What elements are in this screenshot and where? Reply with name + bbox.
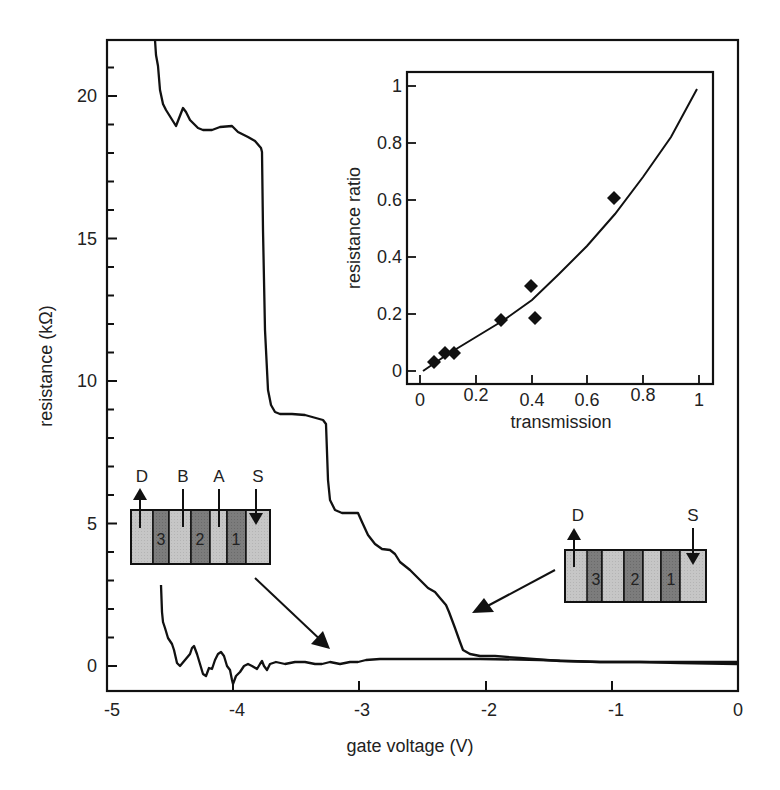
y-tick-5: 5 [87, 514, 97, 534]
y-tick-15: 15 [77, 229, 97, 249]
inset-x-tick-0: 0 [415, 390, 425, 410]
inset-x-tick-0.4: 0.4 [519, 390, 544, 410]
y-tick-20: 20 [77, 86, 97, 106]
x-tick-minus4: -4 [229, 700, 245, 720]
right-segment-3: 3 [592, 571, 601, 588]
y-axis-tick-labels: 0 5 10 15 20 [77, 86, 97, 676]
right-drain-up-arrow-icon [567, 528, 581, 540]
drain-up-arrow-icon [133, 488, 147, 500]
left-label-s: S [252, 467, 263, 486]
right-arrow-head [472, 598, 494, 613]
left-segment-1: 1 [232, 531, 241, 548]
left-label-b: B [177, 467, 188, 486]
right-device-schematic: 3 2 1 D S [565, 506, 706, 602]
inset-x-axis-label: transmission [510, 412, 611, 432]
y-tick-0: 0 [87, 656, 97, 676]
inset-y-tick-0.2: 0.2 [377, 304, 402, 324]
figure: 0 5 10 15 20 -5 -4 -3 -2 -1 0 gate volta… [0, 0, 780, 790]
inset-frame [407, 72, 713, 384]
inset-y-tick-labels: 0 0.2 0.4 0.6 0.8 1 [377, 76, 402, 381]
x-axis-ticks [233, 681, 612, 691]
inset-y-tick-1: 1 [392, 76, 402, 96]
inset-x-tick-0.8: 0.8 [630, 385, 655, 405]
inset-y-tick-0.6: 0.6 [377, 190, 402, 210]
right-schematic-arrow [480, 570, 555, 610]
inset-y-tick-0: 0 [392, 361, 402, 381]
left-schematic-arrow [255, 578, 327, 646]
left-label-a: A [213, 467, 225, 486]
right-segment-1: 1 [667, 571, 676, 588]
inset-y-tick-0.8: 0.8 [377, 133, 402, 153]
y-tick-10: 10 [77, 371, 97, 391]
inset-x-tick-1: 1 [694, 390, 704, 410]
left-segment-2: 2 [196, 531, 205, 548]
inset-x-tick-0.2: 0.2 [463, 385, 488, 405]
left-segment-3: 3 [157, 531, 166, 548]
right-label-s: S [687, 506, 698, 525]
x-axis-label: gate voltage (V) [346, 736, 473, 756]
x-tick-minus1: -1 [608, 700, 624, 720]
x-tick-minus2: -2 [481, 700, 497, 720]
left-label-d: D [136, 467, 148, 486]
x-axis-tick-labels: -5 -4 -3 -2 -1 0 [104, 700, 743, 720]
inset-plot: 0 0.2 0.4 0.6 0.8 1 0 0.2 0.4 0.6 0.8 1 … [344, 72, 713, 432]
inset-x-tick-labels: 0 0.2 0.4 0.6 0.8 1 [415, 385, 704, 410]
right-segment-2: 2 [631, 571, 640, 588]
x-tick-minus5: -5 [104, 700, 120, 720]
left-device-schematic: 3 2 1 D B A S [131, 467, 270, 564]
right-label-d: D [572, 506, 584, 525]
y-axis-ticks [107, 68, 117, 667]
inset-y-axis-label: resistance ratio [344, 167, 364, 289]
x-tick-minus3: -3 [354, 700, 370, 720]
x-tick-0: 0 [733, 700, 743, 720]
inset-y-tick-0.4: 0.4 [377, 247, 402, 267]
y-axis-label: resistance (kΩ) [36, 305, 56, 426]
inset-x-tick-0.6: 0.6 [574, 390, 599, 410]
